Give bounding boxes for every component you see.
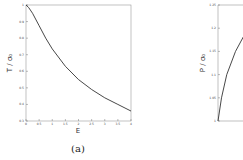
- plot-a-y-ticks: 0.30.40.50.60.70.80.91: [19, 3, 28, 123]
- plot-b-curve: [218, 28, 243, 121]
- plot-a-ylabel: T / σ₀: [6, 54, 14, 74]
- plot-b-ylabel: P / σ₀: [199, 54, 207, 72]
- panel-label-a: (a): [71, 143, 85, 154]
- svg-text:1.5: 1.5: [63, 122, 68, 126]
- svg-text:0.4: 0.4: [19, 102, 24, 106]
- svg-text:0.8: 0.8: [19, 36, 24, 40]
- svg-text:0.7: 0.7: [19, 53, 24, 57]
- plot-a-curve: [26, 5, 131, 111]
- svg-text:1.05: 1.05: [209, 96, 216, 100]
- svg-text:1.1: 1.1: [211, 73, 216, 77]
- svg-text:1: 1: [22, 3, 24, 7]
- svg-text:3.5: 3.5: [115, 122, 120, 126]
- svg-text:1.25: 1.25: [209, 3, 216, 7]
- svg-text:0.5: 0.5: [19, 86, 24, 90]
- svg-text:0.3: 0.3: [19, 119, 24, 123]
- plot-a-xlabel: E: [76, 127, 80, 135]
- plot-b-y-ticks: 11.051.11.151.21.25: [209, 3, 220, 123]
- svg-text:1: 1: [51, 122, 53, 126]
- svg-text:0.5: 0.5: [37, 122, 42, 126]
- svg-text:0.9: 0.9: [19, 20, 24, 24]
- svg-text:1: 1: [214, 119, 216, 123]
- svg-text:2: 2: [78, 122, 80, 126]
- svg-text:0: 0: [25, 122, 27, 126]
- plot-a-x-ticks: 00.511.522.533.54: [25, 119, 132, 126]
- plot-a: 0.30.40.50.60.70.80.91 00.511.522.533.54…: [6, 3, 132, 154]
- svg-text:2.5: 2.5: [89, 122, 94, 126]
- plot-b: 11.051.11.151.21.25 P / σ₀: [199, 3, 243, 123]
- svg-text:0.6: 0.6: [19, 69, 24, 73]
- figure: 0.30.40.50.60.70.80.91 00.511.522.533.54…: [0, 0, 243, 160]
- svg-text:1.15: 1.15: [209, 49, 216, 53]
- svg-text:4: 4: [130, 122, 132, 126]
- svg-text:1.2: 1.2: [211, 26, 216, 30]
- svg-text:3: 3: [104, 122, 106, 126]
